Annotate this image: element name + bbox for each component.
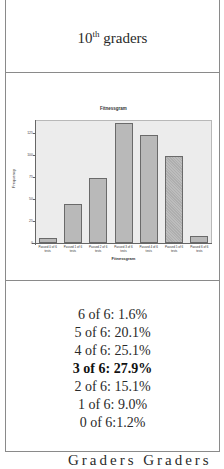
x-tick-label: Passed 2 of 6tests bbox=[86, 246, 111, 253]
grade-label: graders bbox=[100, 30, 148, 46]
y-tick-mark bbox=[33, 221, 35, 222]
x-tick-label: Passed 1 of 6tests bbox=[60, 246, 85, 253]
stats-cell: 6 of 6: 1.6%5 of 6: 20.1%4 of 6: 25.1%3 … bbox=[6, 281, 219, 452]
cutoff-caption: Graders Graders bbox=[68, 452, 212, 469]
x-tick-label: Passed 6 of 6tests bbox=[187, 246, 212, 253]
y-tick-mark bbox=[33, 155, 35, 156]
stat-line: 0 of 6:1.2% bbox=[80, 414, 146, 432]
x-tick-label-line2: tests bbox=[86, 250, 111, 254]
y-tick-label: 100 bbox=[22, 153, 33, 157]
chart-cell: Fitnessgram Frequency Fitnessgram 025507… bbox=[6, 73, 219, 281]
x-tick-label-line2: tests bbox=[60, 250, 85, 254]
y-tick-label: 50 bbox=[22, 197, 33, 201]
y-tick-mark bbox=[33, 133, 35, 134]
y-tick-label: 0 bbox=[22, 241, 33, 245]
x-axis bbox=[32, 243, 212, 244]
stat-line: 1 of 6: 9.0% bbox=[78, 396, 147, 414]
x-tick-label: Passed 4 of 6tests bbox=[136, 246, 161, 253]
y-tick-mark bbox=[33, 177, 35, 178]
y-tick-label: 25 bbox=[22, 219, 33, 223]
stat-line: 3 of 6: 27.9% bbox=[73, 360, 152, 378]
header-cell: 10th graders bbox=[6, 0, 219, 73]
x-tick-label: Passed 3 of 6tests bbox=[111, 246, 136, 253]
chart-title: Fitnessgram bbox=[12, 106, 215, 111]
stat-line: 5 of 6: 20.1% bbox=[74, 324, 150, 342]
y-axis-label: Frequency bbox=[11, 169, 16, 188]
x-tick-label-line2: tests bbox=[162, 250, 187, 254]
x-axis-title: Fitnessgram bbox=[35, 256, 212, 261]
bar-passed-5-of-6 bbox=[165, 156, 183, 243]
y-tick-label: 125 bbox=[22, 131, 33, 135]
x-tick-label-line2: tests bbox=[187, 250, 212, 254]
y-axis bbox=[35, 120, 36, 245]
bar-passed-4-of-6 bbox=[140, 135, 158, 243]
stat-line: 4 of 6: 25.1% bbox=[74, 342, 150, 360]
bar-passed-0-of-6 bbox=[39, 238, 57, 243]
stat-line: 2 of 6: 15.1% bbox=[74, 378, 150, 396]
x-tick-label: Passed 5 of 6tests bbox=[162, 246, 187, 253]
bar-passed-2-of-6 bbox=[89, 178, 107, 243]
grade-suffix: th bbox=[93, 29, 100, 39]
y-tick-mark bbox=[33, 243, 35, 244]
stat-line: 6 of 6: 1.6% bbox=[78, 306, 147, 324]
grade-number: 10 bbox=[78, 30, 93, 46]
y-tick-mark bbox=[33, 199, 35, 200]
fitnessgram-bar-chart: Fitnessgram Frequency Fitnessgram 025507… bbox=[12, 106, 215, 262]
results-table: 10th graders Fitnessgram Frequency Fitne… bbox=[5, 0, 220, 452]
x-tick-label-line2: tests bbox=[111, 250, 136, 254]
grade-heading: 10th graders bbox=[78, 29, 148, 47]
x-tick-label-line2: tests bbox=[136, 250, 161, 254]
bar-passed-3-of-6 bbox=[115, 123, 133, 243]
bar-passed-6-of-6 bbox=[190, 236, 208, 243]
y-tick-label: 75 bbox=[22, 175, 33, 179]
bar-passed-1-of-6 bbox=[64, 204, 82, 243]
x-tick-label: Passed 0 of 6tests bbox=[35, 246, 60, 253]
x-tick-label-line2: tests bbox=[35, 250, 60, 254]
